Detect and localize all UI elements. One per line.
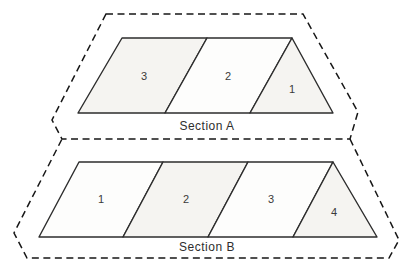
section-a-label: Section A <box>179 119 234 133</box>
section-a-region-2-label: 2 <box>225 70 231 82</box>
section-a-region-1-label: 1 <box>289 83 295 95</box>
section-b-region-2-label: 2 <box>183 193 189 205</box>
sections-diagram-svg: 3 2 1 Section A 1 2 3 4 Section B <box>0 0 414 269</box>
section-b-label: Section B <box>179 240 235 254</box>
section-a-trapezoid: 3 2 1 <box>78 38 333 113</box>
section-b-region-1-label: 1 <box>98 193 104 205</box>
plot-sections-diagram: 3 2 1 Section A 1 2 3 4 Section B <box>0 0 414 269</box>
section-b-trapezoid: 1 2 3 4 <box>39 162 377 237</box>
section-b-region-4-label: 4 <box>331 206 337 218</box>
section-b-region-3-label: 3 <box>268 193 274 205</box>
section-a-region-3-label: 3 <box>141 70 147 82</box>
